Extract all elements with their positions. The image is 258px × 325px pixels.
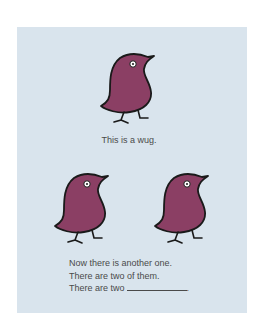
period: . bbox=[187, 283, 190, 293]
wug-bird-icon bbox=[152, 172, 212, 244]
caption-this-is-a-wug: This is a wug. bbox=[0, 134, 258, 146]
wug-bird-icon bbox=[98, 52, 158, 124]
caption-two-wugs: Now there is another one. There are two … bbox=[69, 257, 189, 295]
fill-in-blank bbox=[127, 289, 187, 291]
wug-bird-icon bbox=[52, 172, 112, 244]
caption-line: There are two bbox=[69, 283, 125, 293]
caption-line: There are two of them. bbox=[69, 270, 189, 283]
wug-test-page: This is a wug. Now there is another one.… bbox=[0, 0, 258, 325]
caption-line: Now there is another one. bbox=[69, 257, 189, 270]
caption-line-with-blank: There are two. bbox=[69, 282, 189, 295]
